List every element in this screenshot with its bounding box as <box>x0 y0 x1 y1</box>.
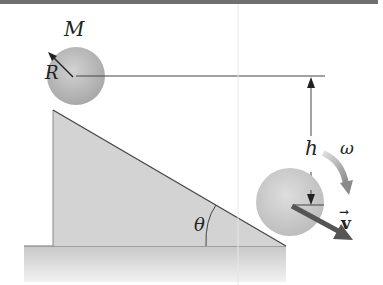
mass-label: M <box>64 19 84 39</box>
height-arrowhead-up-icon <box>307 77 315 88</box>
height-label: h <box>305 138 318 158</box>
ground-slab <box>24 246 286 282</box>
angular-velocity-label: ω <box>340 140 354 157</box>
radius-label: R <box>45 64 59 82</box>
diagram-canvas <box>0 0 383 285</box>
top-border-bar <box>0 0 378 4</box>
angle-label: θ <box>194 216 205 234</box>
bottom-sphere <box>256 168 324 236</box>
rolling-sphere-incline-diagram: M R h ω → v θ <box>0 0 383 285</box>
velocity-label: v <box>341 215 351 232</box>
angular-velocity-arrowhead-icon <box>340 180 353 195</box>
